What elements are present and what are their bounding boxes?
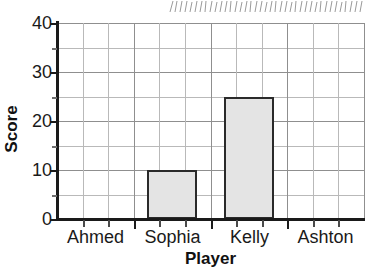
y-tick-label-0: 0 [8,210,52,228]
x-tick-mark-11 [338,220,340,227]
x-tick-mark-6 [211,220,213,229]
x-tick-label-ashton: Ashton [287,228,364,247]
x-tick-mark-1 [83,220,85,227]
x-tick-label-sophia: Sophia [134,228,211,247]
x-tick-label-kelly: Kelly [211,228,288,247]
y-tick-label-40: 40 [8,14,52,32]
plot-area [57,23,364,219]
x-tick-mark-7 [236,220,238,227]
y-tick-mark-30 [50,72,57,74]
y-tick-mark-20 [50,121,57,123]
gridline-x-1 [83,23,84,219]
gridline-x-2 [108,23,109,219]
x-tick-mark-9 [287,220,289,229]
x-tick-mark-3 [134,220,136,229]
gridline-x-3 [134,23,135,219]
gridline-x-11 [338,23,339,219]
y-tick-mark-15 [52,146,57,148]
scan-artifact-ticks [168,0,366,14]
y-tick-mark-25 [52,97,57,99]
x-tick-mark-4 [159,220,161,227]
bar-kelly [224,97,274,219]
x-tick-mark-2 [108,220,110,227]
gridline-x-9 [287,23,288,219]
y-tick-label-30: 30 [8,63,52,81]
x-tick-mark-8 [262,220,264,227]
y-tick-mark-40 [50,23,57,25]
y-tick-mark-0 [50,219,57,221]
gridline-x-10 [313,23,314,219]
gridline-x-6 [211,23,212,219]
bar-chart: 010203040 AhmedSophiaKellyAshton Score P… [0,0,366,272]
x-tick-mark-10 [313,220,315,227]
gridline-x-12 [364,23,365,219]
y-tick-mark-35 [52,48,57,50]
bar-sophia [147,170,197,219]
y-tick-mark-5 [52,195,57,197]
y-axis-title: Score [2,94,22,164]
x-tick-mark-5 [185,220,187,227]
x-tick-label-ahmed: Ahmed [57,228,134,247]
x-axis-title: Player [57,249,364,269]
y-tick-mark-10 [50,170,57,172]
